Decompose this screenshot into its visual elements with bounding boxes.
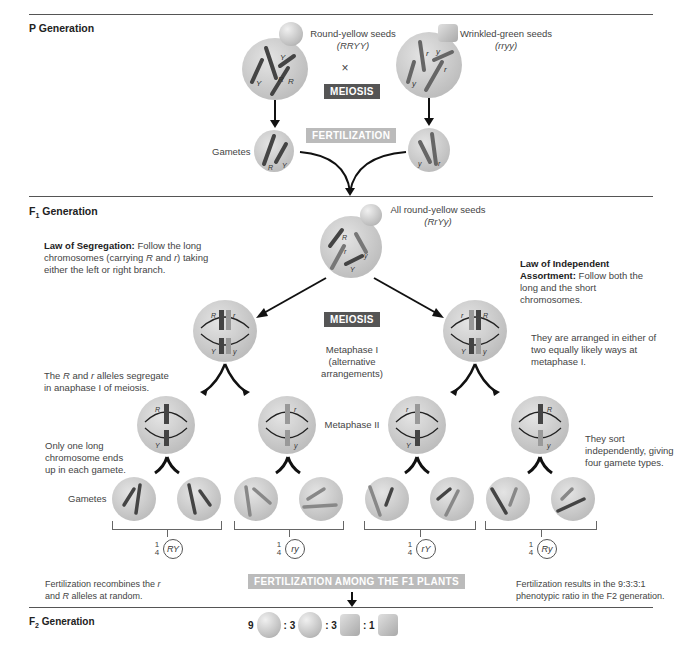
f1-seed-label: All round-yellow seeds (RrYy) [388,204,488,228]
gamete-genotype-Ry: Ry [537,539,557,559]
svg-text:R: R [268,164,273,171]
metaphase2-RY-chromosomes-icon: RY [137,396,195,454]
ratio-note: Fertilization results in the 9:3:3:1 phe… [516,578,676,602]
metaphase2-label: Metaphase II [316,419,388,431]
svg-text:y: y [293,442,298,450]
svg-text:r: r [461,312,464,319]
gamete-bracket [364,521,476,530]
parent2-chromosomes-icon: y y r r [396,32,462,98]
f1-chromosomes-icon: R r y Y [320,216,382,278]
meiosis-banner-f1: MEIOSIS [324,312,380,327]
svg-text:Y: Y [282,162,288,169]
svg-text:R: R [288,77,294,86]
svg-text:r: r [294,406,297,413]
gamete2-chromosomes-icon: y r [408,128,450,172]
fertilization-banner-p: FERTILIZATION [306,128,396,143]
svg-text:y: y [417,160,422,168]
svg-text:y: y [232,348,237,356]
cross-symbol: × [338,62,352,74]
gametes-label-f1: Gametes [68,493,107,505]
gamete-fraction: 14 [275,541,283,557]
divider-f1-f2 [29,607,653,608]
arrow-down-icon [347,592,357,608]
round-yellow-seed-icon [257,612,281,638]
svg-text:y: y [435,47,441,56]
svg-text:R: R [155,406,160,413]
one-long-note: Only one long chromosome ends up in each… [45,440,135,476]
gamete-fraction: 14 [527,541,535,557]
metaphase2-ry-chromosomes-icon: ry [258,396,316,454]
svg-text:R: R [211,312,216,319]
svg-text:Y: Y [350,266,356,273]
metaphase2-rY-chromosomes-icon: rY [388,396,446,454]
recombine-note: Fertilization recombines the r and R all… [45,578,175,602]
gamete-genotype-ry: ry [285,539,305,559]
f2-generation-title: F2 Generation [29,616,95,629]
svg-text:y: y [482,348,487,356]
round-green-seed-icon [298,612,322,638]
split-arrows-icon [200,362,250,398]
p-generation-title: P Generation [29,22,94,34]
svg-text:Y: Y [155,442,161,449]
f1-generation-title: F1 Generation [29,205,98,219]
svg-text:R: R [547,406,552,413]
svg-text:Y: Y [461,348,467,355]
divider-top [29,14,653,15]
gamete1-chromosomes-icon: R Y [254,130,294,172]
parent1-label: Round-yellow seeds (RRYY) [308,28,398,52]
svg-text:r: r [406,406,409,413]
gamete-bracket [234,521,344,530]
svg-text:Y: Y [256,79,262,88]
svg-text:y: y [546,442,551,450]
segregate-note: The R and r alleles segregate in anaphas… [44,370,174,394]
fertilization-among-f1-banner: FERTILIZATION AMONG THE F1 PLANTS [248,574,465,589]
svg-text:r: r [444,65,447,74]
svg-text:r: r [438,160,441,167]
arrow-down-icon [270,100,280,130]
arranged-note: They are arranged in either of two equal… [531,332,671,368]
metaphase1-left-chromosomes-icon: Rr Yy [193,300,257,362]
split-arrows-icon [525,455,555,477]
gamete-genotype-rY: rY [416,539,436,559]
svg-text:y: y [411,79,417,88]
law-of-segregation-text: Law of Segregation: Follow the long chro… [44,240,214,276]
metaphase2-Ry-chromosomes-icon: Ry [511,396,569,454]
law-of-independent-assortment-text: Law of Independent Assortment: Follow bo… [520,258,660,306]
svg-text:Y: Y [280,53,286,62]
metaphase1-right-chromosomes-icon: rR Yy [443,300,507,362]
split-arrows-icon [273,455,303,477]
gamete-bracket [112,521,222,530]
metaphase1-label: Metaphase I (alternative arrangements) [316,344,388,380]
wrinkled-yellow-seed-icon [340,614,360,636]
svg-text:R: R [483,312,488,319]
svg-text:r: r [233,312,236,319]
gamete-bracket [485,521,597,530]
meiosis-banner-p: MEIOSIS [324,84,380,99]
svg-text:R: R [342,234,347,241]
gamete-fraction: 14 [406,541,414,557]
parent1-chromosomes-icon: Y Y R R [242,38,308,100]
sort-note: They sort independently, giving four gam… [585,433,685,469]
f2-ratio: 9 : 3 : 3 : 1 [248,612,398,638]
parent2-label: Wrinkled-green seeds (rryy) [458,28,554,52]
fertilization-join-arrow-icon [300,150,410,200]
gamete-genotype-RY: RY [163,539,183,559]
svg-text:R: R [278,75,284,84]
wrinkled-green-seed-icon [378,614,398,636]
gamete-fraction: 14 [153,541,161,557]
split-arrows-icon [152,455,182,477]
svg-text:Y: Y [406,442,412,449]
svg-text:r: r [426,49,429,58]
split-arrows-icon [450,362,500,398]
svg-text:y: y [363,252,368,260]
gamete-chromosomes-icon [112,477,612,521]
gametes-label-p: Gametes [212,146,251,158]
arrow-down-icon [424,98,434,128]
split-arrows-icon [402,455,432,477]
svg-text:Y: Y [211,348,217,355]
svg-text:r: r [344,248,347,255]
